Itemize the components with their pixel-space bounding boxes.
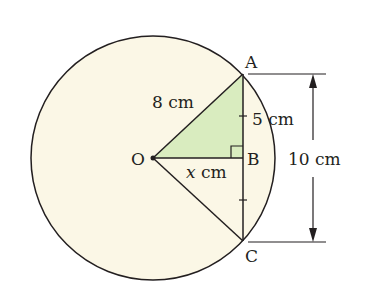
label-point-a: A [244,52,258,72]
arrowhead-up-icon [309,74,317,88]
label-half-chord: 5 cm [252,109,294,129]
label-point-c: C [245,246,258,266]
label-distance: x cm [186,162,227,182]
label-point-o: O [131,149,145,169]
center-point-o [151,156,156,161]
label-chord-length: 10 cm [288,149,341,169]
label-radius: 8 cm [152,92,194,112]
label-point-b: B [247,149,260,169]
label-distance-unit: cm [196,162,227,182]
circle-chord-diagram: A B C O 8 cm 5 cm x cm 10 cm [0,0,378,300]
arrowhead-down-icon [309,228,317,242]
label-distance-var: x [186,162,196,182]
